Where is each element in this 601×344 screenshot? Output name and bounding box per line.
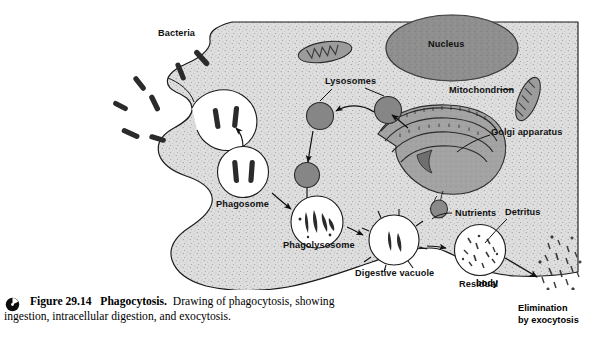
digestive-vacuole bbox=[369, 215, 419, 265]
residual-body bbox=[455, 225, 506, 276]
cell-cytoplasm bbox=[158, 22, 578, 290]
residual-body-line2: body bbox=[476, 278, 498, 288]
label-lysosomes: Lysosomes bbox=[325, 76, 376, 86]
label-nutrients: Nutrients bbox=[455, 208, 496, 218]
caption-text: Figure 29.14 Phagocytosis. Drawing of ph… bbox=[4, 295, 474, 324]
figure-title: Phagocytosis. bbox=[100, 295, 167, 308]
figure-number: Figure 29.14 bbox=[30, 295, 92, 308]
label-bacteria: Bacteria bbox=[158, 28, 196, 38]
lysosome-left bbox=[307, 103, 334, 130]
label-golgi-apparatus: Golgi apparatus bbox=[491, 127, 562, 137]
caption-line1: Drawing of phagocytosis, showing bbox=[173, 295, 335, 308]
label-detritus: Detritus bbox=[505, 207, 541, 217]
label-digestive-vacuole: Digestive vacuole bbox=[355, 268, 434, 278]
label-nucleus: Nucleus bbox=[428, 39, 464, 49]
phagocytosis-diagram: Bacteria Phagosome Nucleus Mit bbox=[0, 0, 601, 290]
caption-line2: ingestion, intracellular digestion, and … bbox=[4, 310, 474, 325]
label-mitochondrion: Mitochondrion bbox=[449, 85, 514, 95]
label-phagolysosome: Phagolysosome bbox=[283, 240, 355, 250]
label-residual-body: body bbox=[457, 278, 517, 289]
label-phagosome: Phagosome bbox=[216, 199, 269, 209]
phagosome bbox=[218, 147, 269, 198]
figure-caption: Figure 29.14 Phagocytosis. Drawing of ph… bbox=[0, 292, 601, 344]
lysosome-lower bbox=[295, 163, 320, 188]
figure-29-14: Bacteria Phagosome Nucleus Mit bbox=[0, 0, 601, 344]
